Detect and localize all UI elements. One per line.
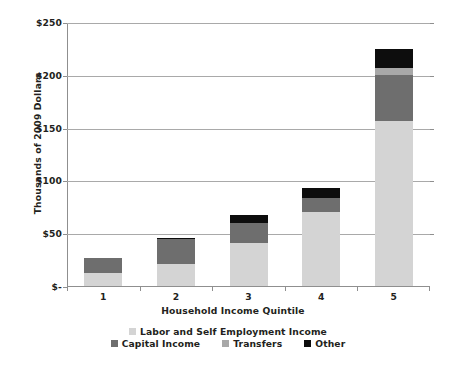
bar-segment[interactable] xyxy=(230,243,268,286)
legend-label: Other xyxy=(315,339,345,348)
legend-row-secondary: Capital IncomeTransfersOther xyxy=(0,339,456,348)
y-tick-mark-right xyxy=(430,181,434,182)
y-axis-tick-labels: $250$200$150$100$50$- xyxy=(20,0,62,300)
legend-label: Transfers xyxy=(233,339,282,348)
y-tick-label: $50 xyxy=(22,228,62,239)
legend-item[interactable]: Other xyxy=(304,339,345,348)
bar-segment[interactable] xyxy=(230,215,268,223)
y-tick-mark-right xyxy=(430,23,434,24)
legend-swatch-icon xyxy=(304,340,311,347)
legend-label: Capital Income xyxy=(122,339,201,348)
y-tick-mark xyxy=(63,129,67,130)
bar-quintile-4[interactable] xyxy=(302,188,340,286)
legend-label: Labor and Self Employment Income xyxy=(140,327,327,336)
y-tick-label: $- xyxy=(22,281,62,292)
y-tick-label: $150 xyxy=(22,123,62,134)
bar-segment[interactable] xyxy=(302,212,340,286)
bar-segment[interactable] xyxy=(302,188,340,198)
legend-item[interactable]: Transfers xyxy=(222,339,282,348)
y-tick-mark xyxy=(63,76,67,77)
bar-segment[interactable] xyxy=(302,198,340,212)
legend-row-primary: Labor and Self Employment Income xyxy=(0,327,456,336)
legend-swatch-icon xyxy=(111,340,118,347)
y-tick-mark xyxy=(63,181,67,182)
x-axis-title: Household Income Quintile xyxy=(0,305,456,316)
gridline xyxy=(67,23,430,24)
y-tick-label: $250 xyxy=(22,17,62,28)
x-tick-label-5: 5 xyxy=(357,291,430,302)
bar-quintile-3[interactable] xyxy=(230,215,268,286)
y-tick-mark xyxy=(63,23,67,24)
y-tick-label: $200 xyxy=(22,70,62,81)
bar-quintile-2[interactable] xyxy=(157,238,195,286)
bar-segment[interactable] xyxy=(84,258,122,273)
bar-segment[interactable] xyxy=(230,223,268,243)
y-tick-mark-right xyxy=(430,76,434,77)
bar-segment[interactable] xyxy=(375,121,413,286)
bar-segment[interactable] xyxy=(84,273,122,286)
x-axis-title-text: Household Income Quintile xyxy=(161,305,304,316)
bar-quintile-1[interactable] xyxy=(84,258,122,286)
bar-segment[interactable] xyxy=(375,75,413,121)
bar-segment[interactable] xyxy=(157,239,195,264)
bar-segment[interactable] xyxy=(157,264,195,286)
bar-segment[interactable] xyxy=(375,49,413,68)
stacked-bar-chart: Thousands of 2009 Dollars $250$200$150$1… xyxy=(0,0,456,370)
plot-area xyxy=(67,23,430,287)
x-axis-line xyxy=(67,286,430,287)
x-tick-label-2: 2 xyxy=(140,291,213,302)
chart-legend: Labor and Self Employment Income Capital… xyxy=(0,327,456,348)
y-tick-mark xyxy=(63,234,67,235)
legend-item[interactable]: Capital Income xyxy=(111,339,201,348)
x-tick-label-1: 1 xyxy=(67,291,140,302)
y-tick-label: $100 xyxy=(22,175,62,186)
x-tick-label-4: 4 xyxy=(285,291,358,302)
x-tick-label-3: 3 xyxy=(212,291,285,302)
legend-swatch-icon xyxy=(222,340,229,347)
bar-quintile-5[interactable] xyxy=(375,49,413,286)
y-tick-mark-right xyxy=(430,234,434,235)
bar-segment[interactable] xyxy=(375,68,413,75)
y-axis-line xyxy=(67,23,68,287)
bar-segment[interactable] xyxy=(157,238,195,239)
legend-item[interactable]: Labor and Self Employment Income xyxy=(129,327,327,336)
legend-swatch-icon xyxy=(129,328,136,335)
y-tick-mark-right xyxy=(430,129,434,130)
